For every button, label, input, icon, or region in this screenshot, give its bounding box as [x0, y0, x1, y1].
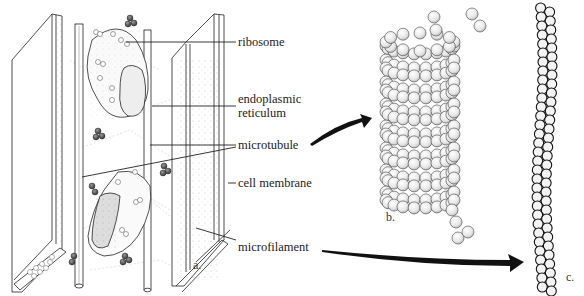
panel-label-b: b. — [386, 210, 395, 225]
panel-label-c: c. — [566, 270, 574, 285]
label-endoplasmic-reticulum-line1: endoplasmic — [238, 92, 301, 106]
label-microtubule: microtubule — [238, 138, 298, 152]
microfilament-model — [532, 3, 557, 296]
label-microfilament: microfilament — [238, 240, 309, 254]
cell-illustration — [12, 14, 236, 292]
panel-label-a: a. — [193, 258, 201, 273]
microtubule-model — [380, 8, 486, 244]
arrow-to-microtubule — [310, 114, 372, 146]
label-ribosome: ribosome — [238, 35, 285, 49]
label-cell-membrane: cell membrane — [238, 176, 312, 190]
arrow-to-microfilament — [322, 250, 524, 272]
cytoskeleton-diagram: ribosome endoplasmic reticulum microtubu… — [0, 0, 584, 296]
label-endoplasmic-reticulum-line2: reticulum — [238, 106, 286, 120]
